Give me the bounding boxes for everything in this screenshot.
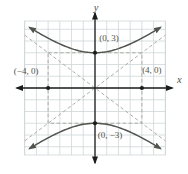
marked-point bbox=[93, 121, 97, 125]
y-axis-label: y bbox=[93, 2, 99, 13]
point-label: (4, 0) bbox=[142, 65, 162, 75]
x-axis-label: x bbox=[176, 74, 182, 85]
point-label: (−4, 0) bbox=[14, 66, 39, 76]
point-label: (0, 3) bbox=[99, 33, 119, 43]
hyperbola-figure: (0, 3)(−4, 0)(4, 0)(0, −3)xy bbox=[0, 0, 188, 174]
marked-point bbox=[46, 86, 50, 90]
point-label: (0, −3) bbox=[98, 130, 123, 140]
graph-container: (0, 3)(−4, 0)(4, 0)(0, −3)xy bbox=[0, 0, 188, 174]
marked-point bbox=[140, 86, 144, 90]
marked-point bbox=[93, 51, 97, 55]
